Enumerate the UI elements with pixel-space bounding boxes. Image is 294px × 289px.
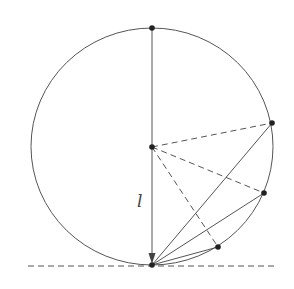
radius-to-B	[152, 147, 264, 193]
chord-to-A	[152, 123, 272, 265]
point-C	[215, 244, 221, 250]
point-bottom	[149, 262, 155, 268]
chord-to-C	[152, 247, 218, 265]
point-A	[269, 120, 275, 126]
point-B	[261, 190, 267, 196]
chord-to-B	[152, 193, 264, 265]
radius-to-A	[152, 123, 272, 147]
point-top	[149, 25, 155, 31]
label-l: l	[137, 191, 142, 211]
geometry-diagram: l	[0, 0, 294, 289]
radius-to-C	[152, 147, 218, 247]
point-center	[149, 144, 155, 150]
